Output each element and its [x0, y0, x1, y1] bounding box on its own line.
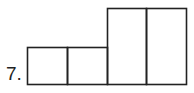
- tall-box-2: [147, 9, 187, 85]
- short-box-1: [28, 48, 68, 85]
- short-box-2: [68, 48, 108, 85]
- composite-rectangle-figure: [0, 0, 194, 93]
- tall-box-1: [108, 9, 147, 85]
